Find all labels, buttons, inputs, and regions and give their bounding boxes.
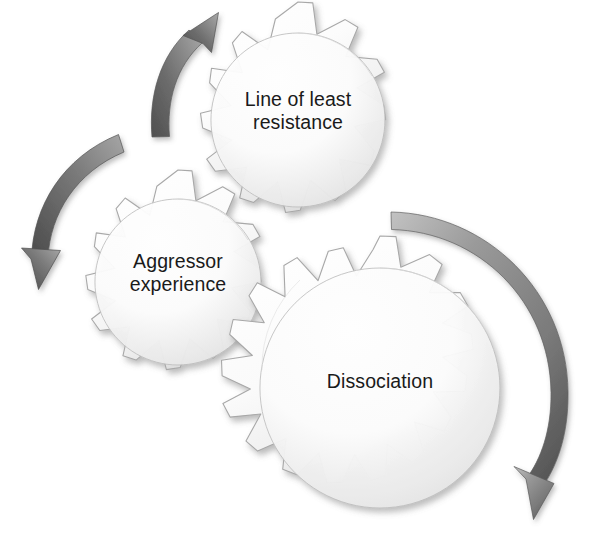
diagram-canvas [0, 0, 608, 543]
gear-process-diagram: Line of least resistance Aggressor exper… [0, 0, 608, 543]
arrow-down-left-head [22, 248, 61, 290]
gear-dissociation[interactable] [222, 236, 500, 508]
arrow-up-right-shaft [151, 30, 202, 137]
gear-hub-dissociation [260, 268, 500, 508]
gear-line-of-least-resistance[interactable] [201, 2, 386, 213]
